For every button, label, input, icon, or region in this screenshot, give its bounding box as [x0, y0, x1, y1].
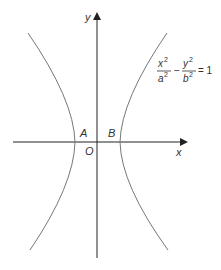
equation: x 2 a 2 − y 2 b 2 = 1 [157, 56, 213, 84]
vertex-b-label: B [108, 127, 115, 139]
y-axis-label: y [84, 11, 92, 23]
svg-text:y: y [182, 58, 189, 69]
svg-text:−: − [174, 65, 180, 76]
origin-label: O [85, 145, 94, 157]
svg-text:= 1: = 1 [198, 65, 213, 76]
svg-text:2: 2 [189, 56, 193, 63]
x-axis-label: x [175, 146, 182, 158]
vertex-a-label: A [79, 127, 87, 139]
svg-text:2: 2 [189, 71, 193, 78]
svg-text:2: 2 [164, 71, 168, 78]
svg-text:2: 2 [164, 56, 168, 63]
svg-text:x: x [157, 58, 164, 69]
hyperbola-diagram: y x O A B x 2 a 2 − y 2 b 2 = 1 [0, 0, 221, 270]
